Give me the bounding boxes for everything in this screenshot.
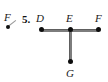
point-f — [96, 27, 101, 32]
vertex-label-d: D — [36, 13, 44, 24]
vertex-label-f: F — [95, 13, 102, 24]
vertex-label-g: G — [66, 68, 74, 79]
point-e — [68, 27, 73, 32]
geometry-diagram: D E F G — [0, 0, 108, 82]
point-g — [68, 59, 73, 64]
vertex-label-e: E — [66, 13, 73, 24]
figure-canvas: F 5. D E F G — [0, 0, 108, 82]
segment-eg — [69, 30, 72, 62]
point-d — [39, 27, 44, 32]
